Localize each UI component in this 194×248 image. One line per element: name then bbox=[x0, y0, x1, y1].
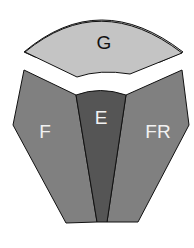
label-e: E bbox=[95, 107, 108, 128]
label-fr: FR bbox=[145, 121, 170, 142]
label-f: F bbox=[39, 121, 51, 142]
brain-region-diagram: G F E FR bbox=[0, 0, 194, 248]
label-g: G bbox=[97, 32, 112, 53]
